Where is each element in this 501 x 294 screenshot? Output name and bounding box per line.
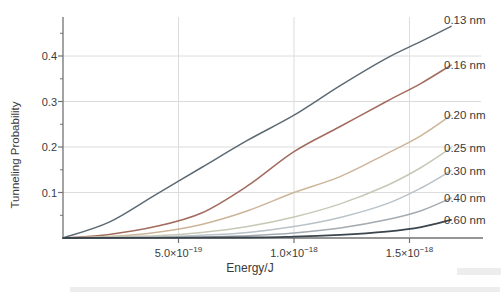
y-tick-label: 0.1 — [42, 187, 57, 199]
x-tick-label: 5.0×10−19 — [155, 245, 203, 259]
x-axis-title: Energy/J — [226, 261, 273, 275]
x-tick-label: 1.0×10−18 — [270, 245, 318, 259]
x-tick-label: 1.5×10−18 — [386, 245, 434, 259]
scan-artifact-band — [70, 287, 500, 292]
y-tick-label: 0.4 — [42, 50, 57, 62]
curve-label: 0.40 nm — [444, 192, 486, 204]
curve-label: 0.30 nm — [444, 165, 486, 177]
curve-label: 0.13 nm — [444, 14, 486, 26]
curve-0.20nm — [63, 115, 451, 238]
curve-label: 0.60 nm — [444, 214, 486, 226]
curve-label: 0.25 nm — [444, 142, 486, 154]
curve-0.13nm — [63, 26, 451, 238]
scan-artifact-band — [457, 268, 501, 275]
tunneling-probability-figure: Tunneling Probability Energy/J 0.10.20.3… — [0, 0, 501, 294]
y-tick-label: 0.2 — [42, 141, 57, 153]
chart-canvas: Tunneling Probability Energy/J 0.10.20.3… — [0, 0, 501, 294]
curve-label: 0.20 nm — [444, 109, 486, 121]
curve-0.16nm — [63, 65, 451, 238]
y-axis-title: Tunneling Probability — [9, 101, 21, 208]
curve-0.30nm — [63, 171, 451, 238]
y-tick-label: 0.3 — [42, 96, 57, 108]
curve-label: 0.16 nm — [444, 59, 486, 71]
